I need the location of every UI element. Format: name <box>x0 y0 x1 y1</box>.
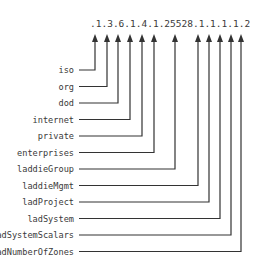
arrow-up-icon <box>195 34 201 42</box>
node-label: ladNumberOfZones <box>0 247 74 257</box>
node-label: ladSystemScalars <box>0 230 74 240</box>
node-label: laddieMgmt <box>22 181 74 191</box>
arrow-up-icon <box>238 34 244 42</box>
connector-line <box>79 40 220 219</box>
connector-line <box>79 40 241 252</box>
arrow-up-icon <box>228 34 234 42</box>
connector-line <box>79 40 209 202</box>
node-label: laddieGroup <box>17 164 74 174</box>
arrow-up-icon <box>206 34 212 42</box>
arrow-up-icon <box>172 34 178 42</box>
arrow-up-icon <box>127 34 133 42</box>
arrow-up-icon <box>217 34 223 42</box>
connector-line <box>79 40 231 235</box>
node-label: ladProject <box>22 197 74 207</box>
oid-node-iso: iso <box>58 34 98 75</box>
node-label: ladSystem <box>27 214 74 224</box>
oid-node-private: private <box>38 34 145 141</box>
node-label: org <box>58 82 74 92</box>
connector-line <box>79 40 107 87</box>
node-label: internet <box>33 115 74 125</box>
arrow-up-icon <box>104 34 110 42</box>
oid-string: .1.3.6.1.4.1.25528.1.1.1.1.2 <box>90 18 250 29</box>
arrow-up-icon <box>139 34 145 42</box>
connector-line <box>79 40 130 120</box>
oid-node-ladSystem: ladSystem <box>27 34 223 224</box>
oid-tree-diagram: .1.3.6.1.4.1.25528.1.1.1.1.2 isoorgdodin… <box>0 0 256 268</box>
node-label: dod <box>58 98 74 108</box>
connector-line <box>79 40 142 136</box>
node-label: private <box>38 131 74 141</box>
node-label: iso <box>58 65 74 75</box>
arrow-up-icon <box>92 34 98 42</box>
oid-node-rows: isoorgdodinternetprivateenterprisesladdi… <box>0 34 244 257</box>
connector-line <box>79 40 118 103</box>
oid-node-ladSystemScalars: ladSystemScalars <box>0 34 234 240</box>
connector-line <box>79 40 95 70</box>
arrow-up-icon <box>115 34 121 42</box>
connector-line <box>79 40 198 186</box>
arrow-up-icon <box>151 34 157 42</box>
node-label: enterprises <box>17 148 74 158</box>
oid-node-org: org <box>58 34 110 92</box>
connector-line <box>79 40 175 169</box>
